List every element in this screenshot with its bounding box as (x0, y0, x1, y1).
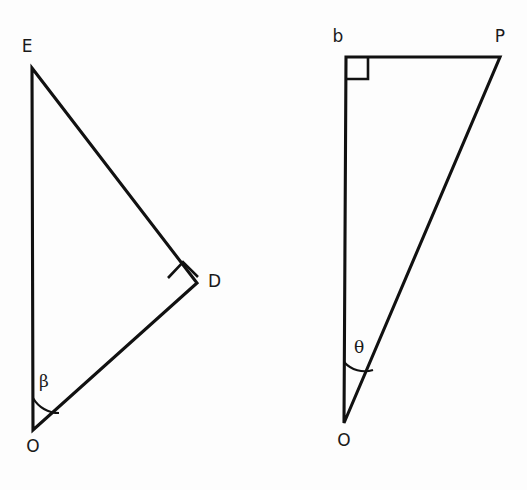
vertex-label-D: D (208, 271, 221, 291)
angle-label-beta: β (39, 371, 49, 391)
geometry-diagram: E D O β b P O θ (0, 0, 527, 490)
triangle-EDO-group: E D O β (22, 36, 221, 456)
right-angle-marker-b (346, 57, 368, 79)
figure-canvas: E D O β b P O θ (0, 0, 527, 490)
angle-label-theta: θ (354, 337, 364, 357)
vertex-label-b: b (333, 26, 344, 46)
vertex-label-P: P (495, 26, 505, 46)
triangle-bPO-outline (344, 57, 500, 423)
vertex-label-E: E (22, 36, 33, 56)
triangle-EDO-outline (32, 68, 197, 430)
vertex-label-O-left: O (26, 436, 39, 456)
triangle-bPO-group: b P O θ (333, 26, 506, 450)
vertex-label-O-right: O (337, 430, 350, 450)
